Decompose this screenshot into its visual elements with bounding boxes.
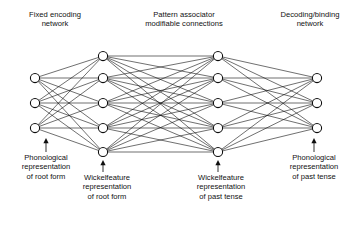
- label-wickelfeature-representation-root-form: Wickelfeature representation of root for…: [62, 173, 152, 201]
- pointer-wickelfeature-root-head: [100, 160, 105, 165]
- connection-line: [222, 58, 313, 101]
- pointer-wickelfeature-past-head: [215, 160, 220, 165]
- unit-node-phonological-past-layer-1: [312, 98, 321, 107]
- connection-line: [222, 129, 312, 151]
- connection-line: [39, 59, 99, 101]
- unit-node-phonological-past-layer-0: [312, 73, 321, 82]
- connection-line: [222, 57, 312, 77]
- unit-node-wickelfeature-root-layer-3: [98, 123, 107, 132]
- connection-line: [39, 57, 98, 76]
- connection-line: [39, 130, 98, 151]
- label-phonological-representation-past-tense: Phonological representation of past tens…: [268, 153, 360, 181]
- unit-node-wickelfeature-past-layer-4: [213, 147, 222, 156]
- unit-node-wickelfeature-root-layer-1: [98, 73, 107, 82]
- unit-node-phonological-root-layer-2: [30, 123, 39, 132]
- pointer-phonological-root-head: [43, 138, 48, 143]
- unit-node-wickelfeature-root-layer-2: [98, 98, 107, 107]
- unit-node-phonological-root-layer-1: [30, 98, 39, 107]
- unit-node-wickelfeature-root-layer-0: [98, 51, 107, 60]
- unit-node-wickelfeature-past-layer-0: [213, 51, 222, 60]
- network-diagram-figure: Fixed encoding network Pattern associato…: [0, 0, 362, 226]
- unit-node-wickelfeature-root-layer-4: [98, 147, 107, 156]
- unit-node-wickelfeature-past-layer-2: [213, 98, 222, 107]
- unit-node-phonological-root-layer-0: [30, 73, 39, 82]
- edge-group: [38, 56, 313, 152]
- connection-line: [222, 105, 313, 150]
- unit-node-phonological-past-layer-2: [312, 123, 321, 132]
- unit-node-wickelfeature-past-layer-1: [213, 73, 222, 82]
- pointer-phonological-past-head: [311, 138, 316, 143]
- unit-node-wickelfeature-past-layer-3: [213, 123, 222, 132]
- label-wickelfeature-representation-past-tense: Wickelfeature representation of past ten…: [176, 173, 266, 201]
- node-group: [30, 51, 321, 156]
